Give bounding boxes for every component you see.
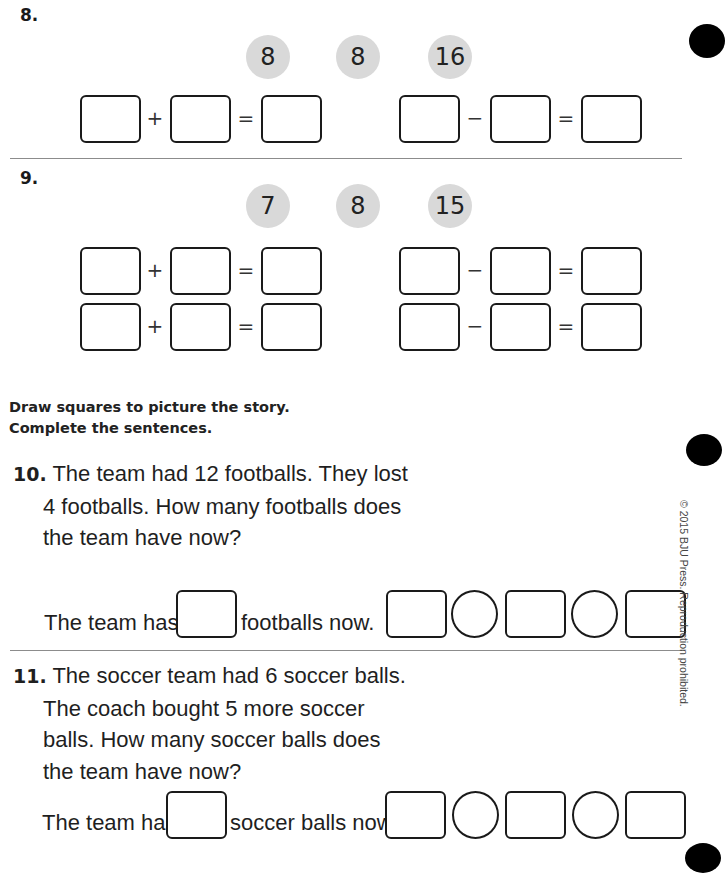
number-circle: 8 (246, 35, 290, 79)
number-sentence-box[interactable] (625, 791, 686, 839)
minus-sign: − (463, 314, 487, 338)
answer-box[interactable] (176, 590, 237, 638)
number-sentence-box[interactable] (385, 791, 446, 839)
operator-circle[interactable] (571, 590, 618, 638)
copyright-text: © 2015 BJU Press. Reproduction prohibite… (678, 500, 690, 707)
minus-sign: − (463, 106, 487, 130)
number-circle: 8 (336, 35, 380, 79)
story-line: 4 footballs. How many footballs does (13, 491, 408, 523)
equals-sign: = (234, 258, 258, 282)
plus-sign: + (143, 106, 167, 130)
story-problem-11: 11. The soccer team had 6 soccer balls. … (13, 660, 406, 787)
answer-box[interactable] (581, 303, 642, 351)
answer-box[interactable] (490, 95, 551, 143)
equals-sign: = (554, 106, 578, 130)
answer-box[interactable] (490, 247, 551, 295)
equals-sign: = (554, 258, 578, 282)
story-line: the team have now? (13, 522, 408, 554)
answer-box[interactable] (490, 303, 551, 351)
answer-box[interactable] (80, 247, 141, 295)
answer-box[interactable] (80, 303, 141, 351)
binder-hole-dot (685, 843, 721, 873)
answer-box[interactable] (170, 303, 231, 351)
plus-sign: + (143, 258, 167, 282)
answer-box[interactable] (399, 95, 460, 143)
answer-box[interactable] (581, 95, 642, 143)
story-line: The team had 12 footballs. They lost (52, 461, 407, 486)
story-problem-10: 10. The team had 12 footballs. They lost… (13, 458, 408, 554)
section-divider (10, 158, 682, 159)
story-line: the team have now? (13, 756, 406, 788)
problem-9-label: 9. (20, 168, 38, 188)
number-sentence-box[interactable] (386, 590, 447, 638)
plus-sign: + (143, 314, 167, 338)
instructions: Draw squares to picture the story. Compl… (9, 397, 290, 439)
number-circle: 15 (428, 184, 472, 228)
story-line: balls. How many soccer balls does (13, 724, 406, 756)
problem-11-label: 11. (13, 665, 47, 687)
answer-box[interactable] (166, 791, 227, 839)
section-divider (10, 650, 682, 651)
binder-hole-dot (686, 434, 722, 466)
story-line: The coach bought 5 more soccer (13, 693, 406, 725)
number-sentence-box[interactable] (505, 791, 566, 839)
number-circle: 16 (428, 35, 472, 79)
sentence-prefix: The team has (42, 810, 177, 836)
minus-sign: − (463, 258, 487, 282)
number-circle: 7 (246, 184, 290, 228)
binder-hole-dot (689, 24, 725, 58)
answer-box[interactable] (261, 95, 322, 143)
answer-box[interactable] (170, 247, 231, 295)
equals-sign: = (554, 314, 578, 338)
answer-box[interactable] (170, 95, 231, 143)
problem-10-label: 10. (13, 463, 47, 485)
sentence-suffix: soccer balls now. (230, 810, 398, 836)
operator-circle[interactable] (451, 590, 498, 638)
sentence-prefix: The team has (44, 610, 179, 636)
answer-box[interactable] (399, 247, 460, 295)
number-circle: 8 (336, 184, 380, 228)
problem-8-label: 8. (20, 5, 38, 25)
answer-box[interactable] (399, 303, 460, 351)
sentence-suffix: footballs now. (241, 610, 374, 636)
equals-sign: = (234, 314, 258, 338)
instruction-line: Draw squares to picture the story. (9, 397, 290, 418)
answer-box[interactable] (581, 247, 642, 295)
story-line: The soccer team had 6 soccer balls. (52, 663, 405, 688)
answer-box[interactable] (261, 303, 322, 351)
equals-sign: = (234, 106, 258, 130)
copyright-notice: © 2015 BJU Press. Reproduction prohibite… (676, 500, 696, 730)
operator-circle[interactable] (572, 791, 619, 839)
number-sentence-box[interactable] (505, 590, 566, 638)
operator-circle[interactable] (452, 791, 499, 839)
answer-box[interactable] (261, 247, 322, 295)
instruction-line: Complete the sentences. (9, 418, 290, 439)
answer-box[interactable] (80, 95, 141, 143)
